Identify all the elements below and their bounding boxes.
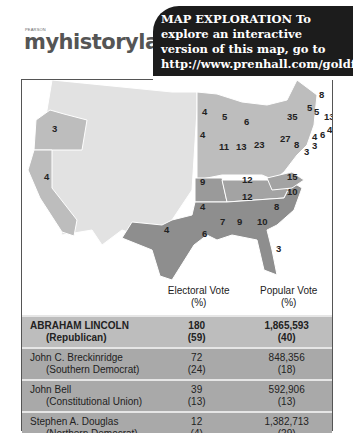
candidate-name: John Bell bbox=[30, 384, 71, 395]
ev-label-virginia: 15 bbox=[287, 171, 298, 182]
electoral-vote-header: Electoral Vote(%) bbox=[152, 283, 245, 316]
ev-label-oregon: 3 bbox=[52, 123, 57, 134]
table-header-row: Electoral Vote(%) Popular Vote(%) bbox=[22, 283, 332, 316]
ev-label-illinois: 11 bbox=[219, 141, 230, 152]
ev-label-vermont: 5 bbox=[307, 102, 313, 113]
map-exploration-callout: MAP EXPLORATION To explore an interactiv… bbox=[153, 6, 353, 76]
myhistorylab-logo: PEARSON myhistorylab bbox=[24, 30, 173, 54]
ev-label-south-carolina: 8 bbox=[274, 201, 279, 212]
ev-label-maine: 8 bbox=[319, 89, 324, 100]
ev-label-pennsylvania: 27 bbox=[280, 133, 291, 144]
table-row: Stephen A. Douglas(Northern Democrat) 12… bbox=[22, 412, 332, 433]
party-name: (Constitutional Union) bbox=[30, 396, 148, 408]
ev-label-texas: 4 bbox=[164, 224, 170, 235]
ev-label-louisiana: 6 bbox=[202, 228, 207, 239]
ev-label-florida: 3 bbox=[276, 243, 281, 254]
ev-label-massachusetts: 13 bbox=[324, 111, 332, 122]
ev-label-new-york: 35 bbox=[287, 111, 298, 122]
ev-label-kentucky: 12 bbox=[242, 174, 253, 185]
ev-label-north-carolina: 10 bbox=[287, 186, 298, 197]
election-results-table: Electoral Vote(%) Popular Vote(%) ABRAHA… bbox=[22, 283, 332, 433]
ev-label-new-hampshire: 5 bbox=[314, 106, 320, 117]
ev-label-rhode-island: 4 bbox=[327, 124, 332, 135]
ev-label-ohio: 23 bbox=[254, 139, 265, 150]
ev-label-tennessee: 12 bbox=[242, 191, 253, 202]
ev-label-missouri: 9 bbox=[200, 176, 205, 187]
ev-label-alabama: 9 bbox=[237, 216, 242, 227]
election-map-1860: 3 4 4 5 6 4 11 13 23 27 35 5 5 8 13 4 6 … bbox=[22, 80, 332, 280]
publisher-label: PEARSON bbox=[25, 27, 46, 32]
brand-name: myhistorylab bbox=[24, 30, 173, 54]
table-row: John Bell(Constitutional Union) 39(13) 5… bbox=[22, 380, 332, 412]
party-name: (Southern Democrat) bbox=[30, 364, 148, 376]
party-name: (Republican) bbox=[30, 332, 148, 344]
party-name: (Northern Democrat) bbox=[30, 428, 148, 433]
candidate-name: ABRAHAM LINCOLN bbox=[30, 320, 129, 331]
ev-label-delaware-2: 3 bbox=[304, 146, 309, 157]
ev-label-minnesota: 4 bbox=[202, 106, 208, 117]
ev-label-connecticut: 6 bbox=[320, 129, 325, 140]
ev-label-maryland: 8 bbox=[294, 139, 299, 150]
ev-label-georgia: 10 bbox=[257, 216, 268, 227]
callout-text: MAP EXPLORATION To explore an interactiv… bbox=[161, 12, 345, 72]
ev-label-mississippi: 7 bbox=[220, 216, 225, 227]
ev-label-indiana: 13 bbox=[236, 141, 247, 152]
ev-label-michigan: 6 bbox=[244, 116, 249, 127]
lincoln-north-region bbox=[197, 80, 317, 180]
ev-label-delaware: 3 bbox=[312, 140, 317, 151]
ev-label-arkansas: 4 bbox=[200, 201, 206, 212]
popular-vote-header: Popular Vote(%) bbox=[245, 283, 332, 316]
table-row: ABRAHAM LINCOLN(Republican) 180(59) 1,86… bbox=[22, 316, 332, 348]
candidate-name: Stephen A. Douglas bbox=[30, 416, 118, 427]
candidate-name: John C. Breckinridge bbox=[30, 352, 123, 363]
ev-label-iowa: 4 bbox=[200, 129, 206, 140]
table-row: John C. Breckinridge(Southern Democrat) … bbox=[22, 348, 332, 380]
ev-label-wisconsin: 5 bbox=[222, 111, 228, 122]
ev-label-california: 4 bbox=[44, 171, 50, 182]
